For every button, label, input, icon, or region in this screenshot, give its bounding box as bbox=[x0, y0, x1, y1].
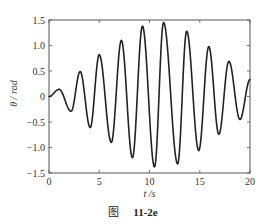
x-tick-label: 15 bbox=[195, 176, 205, 187]
y-tick-label: 1.5 bbox=[33, 15, 46, 26]
y-tick-label: 1.0 bbox=[33, 40, 46, 51]
x-tick-label: 10 bbox=[145, 176, 155, 187]
y-tick-label: 0.5 bbox=[33, 66, 46, 77]
y-tick-label: −1.5 bbox=[27, 168, 45, 179]
x-axis-label: t /s bbox=[144, 188, 156, 199]
plot-frame bbox=[49, 20, 250, 173]
y-axis-label: θ / rad bbox=[8, 79, 19, 107]
line-chart: 05101520 −1.5−1.0−0.500.51.01.5 t /s θ /… bbox=[0, 0, 266, 200]
figure-prefix: 图 bbox=[108, 206, 119, 218]
figure-number: 11-2e bbox=[133, 206, 157, 218]
y-axis: −1.5−1.0−0.500.51.01.5 bbox=[27, 15, 250, 179]
x-tick-label: 0 bbox=[47, 176, 52, 187]
theta-series-line bbox=[49, 23, 250, 167]
y-tick-label: −0.5 bbox=[27, 117, 45, 128]
x-tick-label: 20 bbox=[245, 176, 255, 187]
figure-caption: 图11-2e bbox=[0, 203, 266, 219]
x-tick-label: 5 bbox=[97, 176, 102, 187]
y-tick-label: 0 bbox=[40, 91, 45, 102]
y-tick-label: −1.0 bbox=[27, 142, 45, 153]
